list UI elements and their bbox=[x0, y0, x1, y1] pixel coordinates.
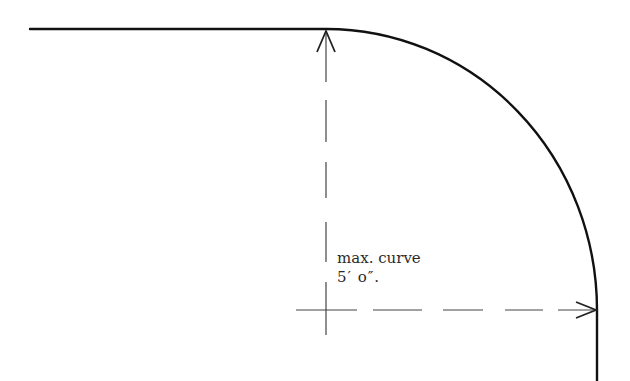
diagram-canvas: max. curve 5′ o″. bbox=[0, 0, 630, 381]
outline-path bbox=[30, 29, 597, 381]
curve-radius-value: 5′ o″. bbox=[337, 268, 380, 287]
max-curve-label: max. curve bbox=[337, 249, 421, 268]
curve-diagram bbox=[0, 0, 630, 381]
